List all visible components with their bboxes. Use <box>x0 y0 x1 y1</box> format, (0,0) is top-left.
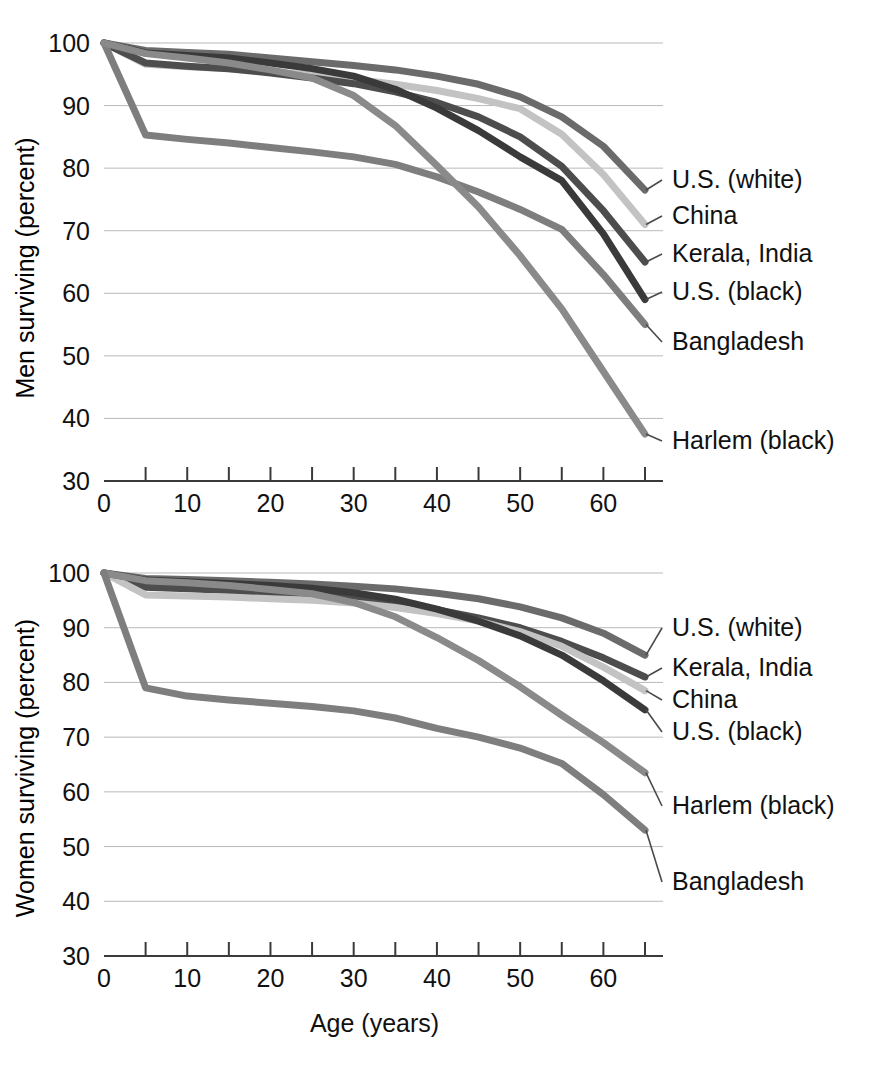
series-label-harlem-black: Harlem (black) <box>672 426 835 454</box>
y-tick-label-70: 70 <box>62 723 90 751</box>
x-tick-label-40: 40 <box>423 964 451 992</box>
series-label-u-s-black: U.S. (black) <box>672 717 803 745</box>
x-tick-label-40: 40 <box>423 489 451 517</box>
y-axis-title: Women surviving (percent) <box>11 619 39 917</box>
y-tick-label-80: 80 <box>62 154 90 182</box>
y-tick-label-50: 50 <box>62 342 90 370</box>
x-tick-label-30: 30 <box>340 489 368 517</box>
y-tick-label-100: 100 <box>48 559 90 587</box>
x-tick-label-30: 30 <box>340 964 368 992</box>
series-label-u-s-white: U.S. (white) <box>672 613 803 641</box>
y-tick-label-100: 100 <box>48 29 90 57</box>
series-label-u-s-black: U.S. (black) <box>672 277 803 305</box>
x-tick-label-50: 50 <box>506 489 534 517</box>
y-tick-label-30: 30 <box>62 942 90 970</box>
x-tick-label-10: 10 <box>173 964 201 992</box>
series-label-kerala-india: Kerala, India <box>672 239 812 267</box>
leader-line-kerala-india <box>646 254 662 262</box>
x-axis-title: Age (years) <box>310 1009 439 1037</box>
x-tick-label-60: 60 <box>589 964 617 992</box>
x-tick-label-60: 60 <box>589 489 617 517</box>
x-tick-label-0: 0 <box>97 489 111 517</box>
leader-line-china <box>646 216 662 224</box>
series-label-bangladesh: Bangladesh <box>672 327 804 355</box>
y-tick-label-30: 30 <box>62 467 90 495</box>
y-tick-label-40: 40 <box>62 887 90 915</box>
leader-line-bangladesh <box>646 830 662 882</box>
x-tick-label-20: 20 <box>257 964 285 992</box>
y-tick-label-60: 60 <box>62 279 90 307</box>
series-line-harlem-black <box>104 43 645 434</box>
leader-line-china <box>646 691 662 700</box>
y-tick-label-60: 60 <box>62 778 90 806</box>
leader-line-u-s-white <box>646 628 662 655</box>
series-label-u-s-white: U.S. (white) <box>672 165 803 193</box>
leader-line-harlem-black <box>646 773 662 806</box>
x-tick-label-50: 50 <box>506 964 534 992</box>
chart-panel-men: 30405060708090100Men surviving (percent)… <box>0 0 873 520</box>
x-tick-label-20: 20 <box>257 489 285 517</box>
chart-svg-women: 30405060708090100Women surviving (percen… <box>0 528 873 1082</box>
y-axis-title: Men surviving (percent) <box>11 137 39 398</box>
y-tick-label-90: 90 <box>62 614 90 642</box>
leader-line-kerala-india <box>646 668 662 677</box>
chart-svg-men: 30405060708090100Men surviving (percent)… <box>0 0 873 554</box>
chart-panel-women: 30405060708090100Women surviving (percen… <box>0 528 873 1082</box>
series-label-china: China <box>672 201 737 229</box>
y-tick-label-50: 50 <box>62 833 90 861</box>
y-tick-label-40: 40 <box>62 404 90 432</box>
y-tick-label-70: 70 <box>62 217 90 245</box>
series-label-bangladesh: Bangladesh <box>672 867 804 895</box>
x-tick-label-0: 0 <box>97 964 111 992</box>
leader-line-u-s-black <box>646 710 662 732</box>
leader-line-harlem-black <box>646 434 662 441</box>
series-label-harlem-black: Harlem (black) <box>672 791 835 819</box>
series-label-china: China <box>672 685 737 713</box>
y-tick-label-90: 90 <box>62 92 90 120</box>
y-tick-label-80: 80 <box>62 668 90 696</box>
x-tick-label-10: 10 <box>173 489 201 517</box>
series-label-kerala-india: Kerala, India <box>672 653 812 681</box>
survival-curves-figure: 30405060708090100Men surviving (percent)… <box>0 0 873 1082</box>
leader-line-u-s-white <box>646 180 662 190</box>
leader-line-bangladesh <box>646 325 662 342</box>
